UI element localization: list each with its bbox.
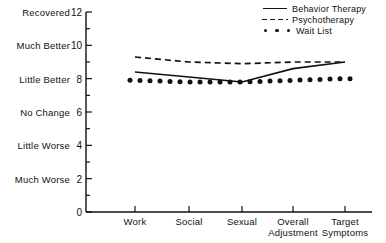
wait-list-dot [288, 78, 293, 83]
x-axis-ticks [135, 206, 345, 212]
legend-label: Psychotherapy [292, 15, 354, 25]
wait-list-dot [188, 80, 193, 85]
chart-legend: Behavior Therapy Psychotherapy Wait List [262, 3, 386, 36]
solid-line-key [262, 4, 288, 14]
wait-list-dot [168, 79, 173, 84]
chart-container: RecoveredMuch BetterLittle BetterNo Chan… [0, 0, 386, 243]
wait-list-dot [278, 78, 283, 83]
wait-list-dot [218, 80, 223, 85]
legend-item-psychotherapy: Psychotherapy [262, 14, 386, 25]
legend-item-behavior-therapy: Behavior Therapy [262, 3, 386, 14]
wait-list-dot [298, 78, 303, 83]
wait-list-dot [128, 78, 133, 83]
legend-label: Wait List [296, 26, 332, 36]
dashed-line-key [262, 15, 288, 25]
wait-list-dot [328, 77, 333, 82]
axis-lines [86, 12, 372, 212]
wait-list-dot [268, 79, 273, 84]
y-axis-ticks [86, 12, 92, 212]
dotted-line-key [262, 26, 292, 36]
wait-list-dot [178, 79, 183, 84]
wait-list-dot [258, 79, 263, 84]
wait-list-dot [158, 79, 163, 84]
series-behavior-therapy [135, 62, 345, 82]
wait-list-dot [138, 78, 143, 83]
wait-list-dot [228, 80, 233, 85]
series-wait-list [128, 76, 353, 84]
wait-list-dot [198, 80, 203, 85]
series-psychotherapy [135, 57, 345, 64]
wait-list-dot [348, 76, 353, 81]
wait-list-dot [238, 80, 243, 85]
wait-list-dot [338, 76, 343, 81]
wait-list-dot [148, 78, 153, 83]
wait-list-dot [318, 77, 323, 82]
wait-list-dot [208, 80, 213, 85]
legend-item-wait-list: Wait List [262, 25, 386, 36]
wait-list-dot [248, 79, 253, 84]
chart-plot-area [0, 0, 386, 243]
legend-label: Behavior Therapy [292, 4, 366, 14]
wait-list-dot [308, 77, 313, 82]
